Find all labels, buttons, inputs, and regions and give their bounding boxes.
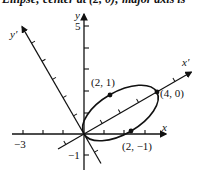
tick-label-neg3: −3 [14,138,26,150]
x-prime-label: x′ [181,56,190,68]
figure: Ellipse; center at (2, 0); major axis is… [0,0,198,176]
y-axis: y 5 −1 [68,9,89,170]
y-prime-label: y′ [9,28,18,40]
point-label-2-1: (2, 1) [91,76,115,89]
point-4-0 [155,90,160,95]
tick-label-neg1: −1 [68,149,80,161]
tick-label-5: 5 [75,20,81,32]
point-2-neg1 [129,129,134,134]
point-label-4-0: (4, 0) [160,87,184,100]
point-2-1 [108,93,113,98]
point-label-2-neg1: (2, −1) [122,140,152,153]
x-axis-label: x [161,121,167,133]
ellipse-diagram: x −3 y 5 −1 [0,0,198,176]
